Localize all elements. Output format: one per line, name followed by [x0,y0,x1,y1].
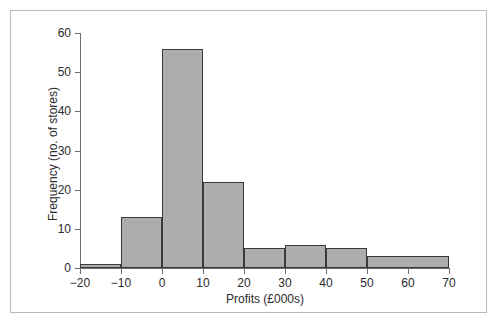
y-axis-line [80,33,81,269]
y-axis-tick-label: 60 [46,27,71,39]
histogram-bar [367,256,449,268]
x-axis-tick-label: 0 [142,276,182,290]
x-axis-tick [203,269,204,274]
x-axis-tick-label: 70 [429,276,469,290]
x-axis-tick-label: 10 [183,276,223,290]
x-axis-tick-label: −10 [101,276,141,290]
histogram-figure: −20−100102030405060700102030405060 Profi… [0,0,497,334]
x-axis-tick [244,269,245,274]
histogram-bar [80,264,121,268]
x-axis-tick [285,269,286,274]
histogram-bar [203,182,244,268]
histogram-bar [326,248,367,268]
plot-area: −20−100102030405060700102030405060 Profi… [0,0,497,334]
x-axis-tick [80,269,81,274]
x-axis-title: Profits (£000s) [80,292,450,306]
x-axis-tick-label: −20 [60,276,100,290]
histogram-bar [121,217,162,268]
histogram-bar [244,248,285,268]
x-axis-tick [121,269,122,274]
y-axis-title: Frequency (no. of stores) [46,44,60,264]
x-axis-tick [367,269,368,274]
x-axis-tick-label: 40 [306,276,346,290]
histogram-bar [285,245,326,269]
x-axis-tick-label: 50 [347,276,387,290]
x-axis-tick-label: 30 [265,276,305,290]
x-axis-tick [408,269,409,274]
histogram-bar [162,49,203,268]
x-axis-tick-label: 60 [388,276,428,290]
x-axis-tick [449,269,450,274]
x-axis-tick-label: 20 [224,276,264,290]
x-axis-tick [162,269,163,274]
x-axis-line [80,268,450,269]
x-axis-tick [326,269,327,274]
